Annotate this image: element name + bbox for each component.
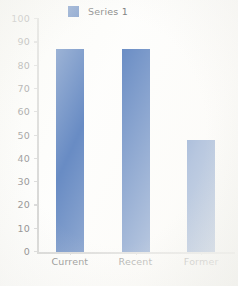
legend-swatch-series-1 <box>68 6 79 17</box>
y-axis-tick-label: 100 <box>11 13 30 25</box>
y-axis-tick: 20 <box>0 199 37 211</box>
y-axis-tick: 100 <box>0 13 37 25</box>
y-axis-tick-label: 50 <box>18 130 31 142</box>
x-axis-label-former: Former <box>168 256 234 268</box>
y-axis-tick: 80 <box>0 60 37 72</box>
y-axis-tick: 10 <box>0 223 37 235</box>
x-axis-tick-mark <box>136 252 137 255</box>
bar-chart: Series 1 0102030405060708090100 CurrentR… <box>0 0 238 286</box>
y-axis-tick-label: 10 <box>18 223 31 235</box>
x-axis-tick-mark <box>70 252 71 255</box>
y-axis-tick-mark <box>34 181 37 182</box>
chart-legend: Series 1 <box>68 6 128 17</box>
x-axis-label-recent: Recent <box>103 256 169 268</box>
bar-former <box>187 140 215 252</box>
y-axis-tick-mark <box>34 88 37 89</box>
y-axis-tick-label: 70 <box>18 83 31 95</box>
y-axis-tick-mark <box>34 135 37 136</box>
y-axis-tick-label: 0 <box>24 246 30 258</box>
plot-area <box>37 19 234 252</box>
y-axis-tick: 50 <box>0 130 37 142</box>
y-axis-tick-mark <box>34 251 37 252</box>
y-axis-tick: 0 <box>0 246 37 258</box>
y-axis-tick-mark <box>34 65 37 66</box>
y-axis-tick-mark <box>34 204 37 205</box>
y-axis-tick-label: 40 <box>18 153 31 165</box>
y-axis-tick: 30 <box>0 176 37 188</box>
y-axis-tick-mark <box>34 158 37 159</box>
y-axis-tick-mark <box>34 18 37 19</box>
y-axis-tick-mark <box>34 111 37 112</box>
y-axis-tick-mark <box>34 41 37 42</box>
x-axis-tick-mark <box>201 252 202 255</box>
x-axis-label-current: Current <box>37 256 103 268</box>
y-axis-tick: 90 <box>0 36 37 48</box>
y-axis-tick-mark <box>34 228 37 229</box>
y-axis-tick-label: 20 <box>18 199 31 211</box>
y-axis-tick-label: 80 <box>18 60 31 72</box>
y-axis-tick-label: 60 <box>18 106 31 118</box>
y-axis-tick: 60 <box>0 106 37 118</box>
y-axis-tick: 40 <box>0 153 37 165</box>
bar-current <box>56 49 84 252</box>
y-axis-tick: 70 <box>0 83 37 95</box>
legend-label-series-1: Series 1 <box>88 7 128 17</box>
y-axis-tick-label: 30 <box>18 176 31 188</box>
bar-recent <box>122 49 150 252</box>
y-axis-tick-label: 90 <box>18 36 31 48</box>
y-axis-line <box>37 18 39 253</box>
